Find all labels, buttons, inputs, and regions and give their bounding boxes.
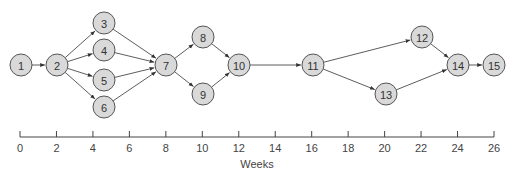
tick-label: 4 — [90, 142, 96, 154]
tick-label: 22 — [415, 142, 427, 154]
node-label: 10 — [233, 60, 245, 72]
axis-title: Weeks — [240, 158, 274, 170]
node-label: 8 — [200, 32, 206, 44]
node-15: 15 — [483, 54, 505, 76]
edge-7-8 — [175, 44, 194, 58]
node-1: 1 — [10, 54, 32, 76]
tick-label: 12 — [233, 142, 245, 154]
tick-label: 0 — [17, 142, 23, 154]
edge-7-9 — [175, 72, 194, 87]
tick-label: 26 — [488, 142, 500, 154]
node-label: 13 — [380, 89, 392, 101]
tick-label: 18 — [342, 142, 354, 154]
node-label: 11 — [307, 60, 318, 72]
edge-12-14 — [431, 44, 449, 58]
node-3: 3 — [93, 12, 115, 34]
node-label: 5 — [101, 75, 107, 87]
node-label: 12 — [416, 32, 428, 44]
node-8: 8 — [192, 26, 214, 48]
node-7: 7 — [155, 54, 177, 76]
node-13: 13 — [375, 83, 397, 105]
node-5: 5 — [93, 69, 115, 91]
edge-5-7 — [115, 68, 155, 78]
node-label: 2 — [54, 60, 60, 72]
tick-label: 6 — [126, 142, 132, 154]
edge-2-3 — [65, 31, 95, 58]
weeks-axis: 02468101214161820222426 — [17, 131, 500, 154]
edge-2-5 — [67, 68, 92, 76]
node-6: 6 — [93, 96, 115, 118]
node-2: 2 — [46, 54, 68, 76]
tick-label: 8 — [163, 142, 169, 154]
node-12: 12 — [411, 26, 433, 48]
node-10: 10 — [228, 54, 250, 76]
node-label: 3 — [101, 18, 107, 30]
node-label: 6 — [101, 102, 107, 114]
tick-label: 24 — [451, 142, 463, 154]
node-label: 9 — [200, 89, 206, 101]
edge-11-12 — [324, 40, 411, 62]
node-label: 7 — [163, 60, 169, 72]
node-label: 4 — [101, 45, 107, 57]
node-11: 11 — [302, 54, 324, 76]
node-label: 15 — [488, 60, 500, 72]
node-9: 9 — [192, 83, 214, 105]
edge-2-4 — [67, 54, 92, 62]
edge-8-10 — [212, 44, 230, 58]
node-14: 14 — [447, 54, 469, 76]
node-4: 4 — [93, 39, 115, 61]
edge-11-13 — [323, 69, 375, 90]
node-label: 14 — [452, 60, 464, 72]
edge-13-14 — [396, 69, 447, 89]
edge-9-10 — [212, 73, 230, 88]
tick-label: 20 — [378, 142, 390, 154]
network-diagram: 123456789101112131415 024681012141618202… — [0, 0, 515, 177]
edge-4-7 — [115, 53, 155, 63]
node-label: 1 — [18, 60, 24, 72]
edge-2-6 — [65, 72, 95, 99]
tick-label: 14 — [269, 142, 281, 154]
tick-label: 16 — [306, 142, 318, 154]
tick-label: 10 — [196, 142, 208, 154]
tick-label: 2 — [53, 142, 59, 154]
